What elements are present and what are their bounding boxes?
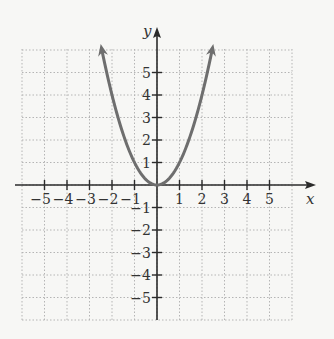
coordinate-plane: −5−4−3−2−112345−5−4−3−2−112345 x y xyxy=(0,0,334,339)
y-axis-label: y xyxy=(142,22,152,40)
x-tick-label: 3 xyxy=(220,191,229,207)
y-tick-label: −2 xyxy=(130,222,151,238)
y-tick-label: 4 xyxy=(142,87,151,103)
y-tick-label: 3 xyxy=(142,110,151,126)
x-tick-label: 5 xyxy=(265,191,274,207)
y-tick-label: −4 xyxy=(130,267,151,283)
x-tick-label: 1 xyxy=(175,191,184,207)
y-tick-label: 1 xyxy=(142,155,151,171)
y-tick-label: 5 xyxy=(142,65,151,81)
x-tick-label: 2 xyxy=(198,191,207,207)
parabola-graph: −5−4−3−2−112345−5−4−3−2−112345 x y xyxy=(0,0,334,339)
x-tick-label: −3 xyxy=(75,191,96,207)
y-tick-label: −5 xyxy=(130,290,151,306)
x-tick-label: −2 xyxy=(98,191,119,207)
y-tick-label: 2 xyxy=(142,132,151,148)
x-axis-label: x xyxy=(306,190,315,208)
y-tick-label: −3 xyxy=(130,245,151,261)
x-tick-label: −5 xyxy=(30,191,51,207)
x-tick-label: 4 xyxy=(243,191,252,207)
axes xyxy=(15,27,316,320)
x-tick-label: −4 xyxy=(53,191,74,207)
y-tick-label: −1 xyxy=(130,200,151,216)
